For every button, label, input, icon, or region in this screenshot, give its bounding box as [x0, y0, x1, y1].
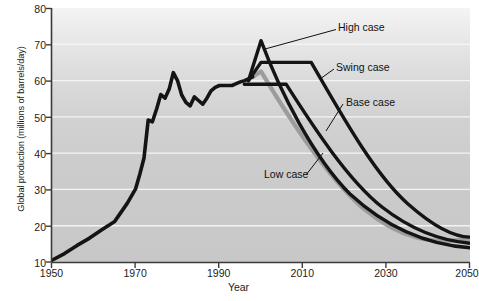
- leader-high-case: [265, 30, 336, 50]
- y-tick-30: 30: [12, 185, 46, 196]
- x-tick-2030: 2030: [374, 267, 397, 279]
- series-base-case: [244, 84, 470, 243]
- annotation-low-case: Low case: [264, 169, 308, 180]
- y-tick-80: 80: [12, 4, 46, 15]
- y-tick-70: 70: [12, 40, 46, 51]
- annotation-swing-case: Swing case: [336, 62, 390, 73]
- y-tick-60: 60: [12, 76, 46, 87]
- x-tick-2010: 2010: [291, 267, 314, 279]
- annotation-high-case: High case: [338, 22, 385, 33]
- y-axis-tick-labels: 80 70 60 50 40 30 20 10: [6, 0, 46, 301]
- y-tick-40: 40: [12, 149, 46, 160]
- x-tick-1970: 1970: [123, 267, 146, 279]
- chart-svg: [52, 8, 470, 262]
- annotation-base-case: Base case: [346, 97, 395, 108]
- y-tick-50: 50: [12, 113, 46, 124]
- leader-swing-case: [320, 69, 334, 79]
- y-tick-20: 20: [12, 222, 46, 233]
- x-tick-2050: 2050: [455, 267, 478, 279]
- x-tick-1950: 1950: [40, 267, 63, 279]
- x-axis-title: Year: [0, 281, 477, 293]
- plot-area: [52, 8, 470, 262]
- series-historical: [52, 73, 253, 261]
- x-tick-1990: 1990: [207, 267, 230, 279]
